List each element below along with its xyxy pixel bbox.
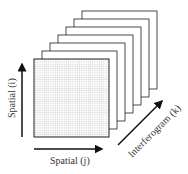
depth-axis-label: Interferogram (k) xyxy=(126,102,184,160)
front-frame-grid xyxy=(34,59,109,137)
hyperspectral-cube-diagram: Spatial (i) Spatial (j) Interferogram (k… xyxy=(0,0,188,174)
horizontal-axis-label: Spatial (j) xyxy=(50,155,90,167)
vertical-axis-label: Spatial (i) xyxy=(6,78,18,118)
